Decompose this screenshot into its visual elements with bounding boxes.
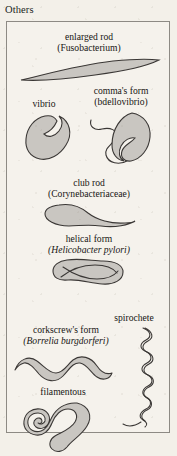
label-spirochete-common: spirochete [114,312,153,323]
label-filamentous-common: filamentous [40,386,85,397]
label-helical-form-common: helical form [66,233,113,244]
label-corkscrews-form-common: corkscrew's form [33,324,99,335]
illustration-club-rod [41,202,137,230]
label-commas-form-taxon: (bdellovibrio) [94,96,147,107]
caption-commas-form: comma's form (bdellovibrio) [71,85,171,107]
illustration-filamentous [19,400,111,456]
label-club-rod-common: club rod [73,177,105,188]
caption-filamentous: filamentous [15,386,111,397]
label-enlarged-rod-taxon: (Fusobacterium) [57,42,120,53]
label-vibrio-common: vibrio [33,98,56,109]
illustration-corkscrews-form [11,350,117,384]
illustration-commas-form [77,110,157,168]
illustration-helical-form [51,257,127,287]
label-corkscrews-form-taxon: (Borrelia burgdorferi) [23,335,108,346]
label-helical-form-taxon: (Helicobacter pylori) [48,244,130,255]
caption-vibrio: vibrio [13,98,75,109]
figure-panel: enlarged rod (Fusobacterium) vibrio comm… [6,21,170,433]
label-commas-form-common: comma's form [94,85,149,96]
caption-helical-form: helical form (Helicobacter pylori) [7,233,171,255]
section-title: Others [5,4,34,15]
illustration-vibrio [21,112,75,164]
illustration-enlarged-rod [17,56,163,82]
caption-spirochete: spirochete [97,312,171,323]
caption-club-rod: club rod (Corynebacteriaceae) [7,177,171,199]
caption-corkscrews-form: corkscrew's form (Borrelia burgdorferi) [9,324,123,346]
label-club-rod-taxon: (Corynebacteriaceae) [48,188,130,199]
label-enlarged-rod-common: enlarged rod [65,31,113,42]
caption-enlarged-rod: enlarged rod (Fusobacterium) [7,31,171,53]
